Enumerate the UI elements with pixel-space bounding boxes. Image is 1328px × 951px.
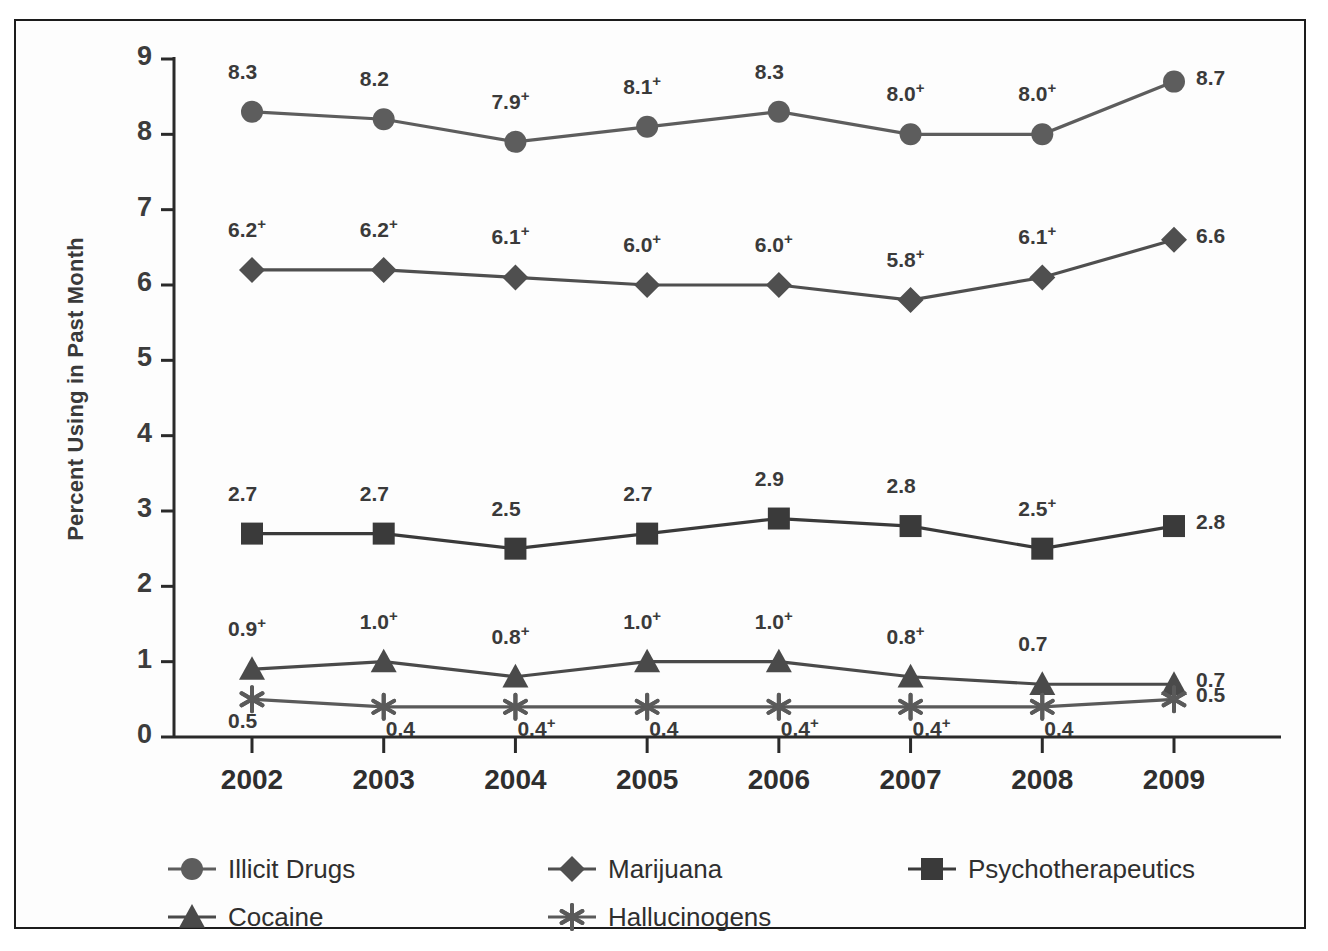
data-point-marker-circle <box>181 858 203 880</box>
legend-marker-diamond-icon <box>546 854 598 884</box>
data-label: 6.2+ <box>360 218 398 242</box>
data-label: 8.3 <box>755 60 784 84</box>
data-label: 0.7 <box>1018 632 1047 656</box>
chart-frame: Percent Using in Past Month 0123456789 2… <box>14 19 1306 929</box>
y-tick-label: 3 <box>118 493 152 524</box>
data-point-marker-square <box>900 515 922 537</box>
data-label: 5.8+ <box>887 248 925 272</box>
data-point-marker-circle <box>1163 71 1185 93</box>
data-label: 8.0+ <box>887 82 925 106</box>
y-tick-label: 5 <box>118 342 152 373</box>
legend-label: Cocaine <box>228 902 323 933</box>
legend-marker-square-icon <box>906 854 958 884</box>
legend-item-cocaine[interactable]: Cocaine <box>166 895 323 939</box>
data-label: 7.9+ <box>491 90 529 114</box>
data-label: 0.4 <box>386 717 415 741</box>
y-tick-label: 6 <box>118 267 152 298</box>
data-point-marker-diamond <box>634 272 660 298</box>
data-point-marker-circle <box>504 131 526 153</box>
legend-item-marijuana[interactable]: Marijuana <box>546 847 722 891</box>
data-point-marker-diamond <box>502 264 528 290</box>
legend-swatch <box>546 854 598 884</box>
data-label: 2.5+ <box>1018 497 1056 521</box>
data-label: 0.4+ <box>781 717 819 741</box>
data-label: 2.7 <box>623 482 652 506</box>
data-label: 1.0+ <box>755 610 793 634</box>
data-label: 2.7 <box>228 482 257 506</box>
legend-item-illicit-drugs[interactable]: Illicit Drugs <box>166 847 355 891</box>
legend-item-hallucinogens[interactable]: Hallucinogens <box>546 895 771 939</box>
x-tick-label: 2003 <box>324 764 444 796</box>
data-label: 0.8+ <box>887 625 925 649</box>
legend-item-psychotherapeutics[interactable]: Psychotherapeutics <box>906 847 1195 891</box>
data-point-marker-diamond <box>898 287 924 313</box>
data-point-marker-triangle <box>371 649 397 673</box>
data-point-marker-diamond <box>766 272 792 298</box>
data-label: 8.3 <box>228 60 257 84</box>
data-label: 6.2+ <box>228 218 266 242</box>
y-tick-label: 7 <box>118 192 152 223</box>
data-label: 0.5 <box>228 709 257 733</box>
data-label: 0.4+ <box>517 717 555 741</box>
data-point-marker-circle <box>768 101 790 123</box>
data-label: 0.5 <box>1196 683 1225 707</box>
data-label: 0.4 <box>649 717 678 741</box>
legend-swatch <box>166 902 218 932</box>
y-tick-label: 0 <box>118 719 152 750</box>
data-label: 1.0+ <box>360 610 398 634</box>
legend-label: Illicit Drugs <box>228 854 355 885</box>
legend-row-bottom: CocaineHallucinogens <box>166 895 1266 939</box>
legend-swatch <box>906 854 958 884</box>
legend-swatch <box>166 854 218 884</box>
chart-figure: Percent Using in Past Month 0123456789 2… <box>0 0 1328 951</box>
data-label: 6.6 <box>1196 224 1225 248</box>
legend-label: Marijuana <box>608 854 722 885</box>
x-tick-label: 2004 <box>455 764 575 796</box>
data-label: 0.4 <box>1044 717 1073 741</box>
data-label: 0.4+ <box>913 717 951 741</box>
x-tick-label: 2006 <box>719 764 839 796</box>
data-label: 2.5 <box>491 497 520 521</box>
data-point-marker-diamond <box>1029 264 1055 290</box>
x-tick-label: 2008 <box>982 764 1102 796</box>
legend-row-top: Illicit DrugsMarijuanaPsychotherapeutics <box>166 847 1266 891</box>
legend-label: Psychotherapeutics <box>968 854 1195 885</box>
data-point-marker-square <box>921 858 943 880</box>
legend-swatch <box>546 902 598 932</box>
data-label: 8.1+ <box>623 75 661 99</box>
data-label: 8.2 <box>360 67 389 91</box>
legend-marker-triangle-icon <box>166 902 218 932</box>
legend-marker-circle-icon <box>166 854 218 884</box>
y-tick-label: 8 <box>118 116 152 147</box>
y-tick-label: 1 <box>118 644 152 675</box>
data-label: 0.9+ <box>228 617 266 641</box>
data-label: 6.1+ <box>1018 225 1056 249</box>
data-point-marker-square <box>1031 538 1053 560</box>
data-point-marker-circle <box>241 101 263 123</box>
y-tick-label: 2 <box>118 568 152 599</box>
data-point-marker-square <box>636 523 658 545</box>
data-label: 6.1+ <box>491 225 529 249</box>
data-point-marker-square <box>768 508 790 530</box>
data-label: 6.0+ <box>755 233 793 257</box>
data-label: 2.8 <box>887 474 916 498</box>
data-label: 6.0+ <box>623 233 661 257</box>
data-point-marker-diamond <box>239 257 265 283</box>
data-point-marker-circle <box>1031 123 1053 145</box>
x-tick-label: 2009 <box>1114 764 1234 796</box>
x-tick-label: 2005 <box>587 764 707 796</box>
chart-legend: Illicit DrugsMarijuanaPsychotherapeutics… <box>166 847 1266 942</box>
data-point-marker-diamond <box>559 856 585 882</box>
data-label: 2.8 <box>1196 510 1225 534</box>
data-point-marker-square <box>241 523 263 545</box>
data-label: 0.8+ <box>491 625 529 649</box>
data-label: 1.0+ <box>623 610 661 634</box>
data-point-marker-diamond <box>371 257 397 283</box>
y-tick-label: 4 <box>118 418 152 449</box>
legend-marker-asterisk-icon <box>546 902 598 932</box>
data-point-marker-diamond <box>1161 227 1187 253</box>
data-label: 2.9 <box>755 467 784 491</box>
data-point-marker-square <box>373 523 395 545</box>
data-point-marker-square <box>1163 515 1185 537</box>
y-tick-label: 9 <box>118 41 152 72</box>
